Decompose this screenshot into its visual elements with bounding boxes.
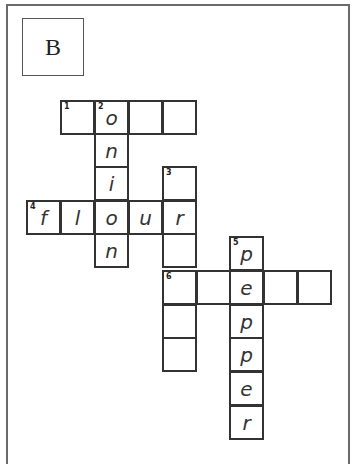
cell-letter: f bbox=[28, 206, 59, 230]
cell-letter: r bbox=[164, 206, 195, 230]
crossword-cell[interactable]: e bbox=[229, 270, 264, 305]
crossword-cell[interactable] bbox=[162, 100, 197, 135]
clue-number: 1 bbox=[64, 102, 70, 111]
crossword-cell[interactable] bbox=[128, 100, 163, 135]
crossword-cell[interactable]: o bbox=[94, 200, 129, 235]
crossword-cell[interactable]: r bbox=[162, 200, 197, 235]
crossword-cell[interactable]: l bbox=[60, 200, 95, 235]
cell-letter: p bbox=[231, 310, 262, 334]
crossword-cell[interactable]: 2o bbox=[94, 100, 129, 135]
clue-number: 6 bbox=[166, 272, 172, 281]
crossword-cell[interactable] bbox=[162, 337, 197, 372]
crossword-cell[interactable] bbox=[263, 270, 298, 305]
crossword-cell[interactable]: i bbox=[94, 166, 129, 201]
cell-letter: i bbox=[96, 172, 127, 196]
clue-number: 3 bbox=[166, 168, 172, 177]
cell-letter: e bbox=[231, 276, 262, 300]
crossword-cell[interactable]: p bbox=[229, 304, 264, 339]
crossword-cell[interactable]: 1 bbox=[60, 100, 95, 135]
crossword-cell[interactable]: 6 bbox=[162, 270, 197, 305]
crossword-cell[interactable]: e bbox=[229, 371, 264, 406]
cell-letter: u bbox=[130, 206, 161, 230]
crossword-cell[interactable] bbox=[297, 270, 332, 305]
crossword-cell[interactable]: 5p bbox=[229, 236, 264, 271]
crossword-cell[interactable]: 4f bbox=[26, 200, 61, 235]
crossword-cell[interactable]: n bbox=[94, 233, 129, 268]
cell-letter: p bbox=[231, 242, 262, 266]
crossword-cell[interactable]: p bbox=[229, 337, 264, 372]
cell-letter: r bbox=[231, 411, 262, 435]
crossword-cell[interactable] bbox=[196, 270, 231, 305]
crossword-cell[interactable] bbox=[162, 233, 197, 268]
cell-letter: p bbox=[231, 343, 262, 367]
cell-letter: n bbox=[96, 139, 127, 163]
crossword-cell[interactable]: r bbox=[229, 405, 264, 440]
crossword-cell[interactable]: u bbox=[128, 200, 163, 235]
cell-letter: e bbox=[231, 377, 262, 401]
crossword-cell[interactable]: n bbox=[94, 133, 129, 168]
cell-letter: n bbox=[96, 239, 127, 263]
cell-letter: o bbox=[96, 106, 127, 130]
cell-letter: l bbox=[62, 206, 93, 230]
puzzle-label: B bbox=[22, 18, 84, 76]
crossword-cell[interactable] bbox=[162, 304, 197, 339]
crossword-cell[interactable]: 3 bbox=[162, 166, 197, 201]
cell-letter: o bbox=[96, 206, 127, 230]
